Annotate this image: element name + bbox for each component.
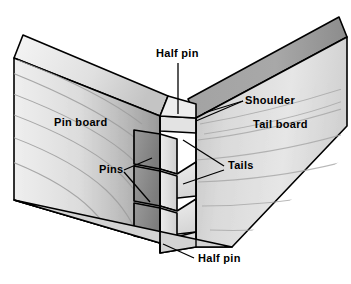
dovetail-joint-diagram: Half pin Shoulder Pin board Tail board P…	[0, 0, 351, 284]
label-pins: Pins	[99, 163, 123, 175]
pin-side-1	[160, 134, 177, 174]
label-shoulder: Shoulder	[245, 94, 295, 106]
label-tail-board: Tail board	[253, 118, 308, 130]
half-pin-top-block	[160, 116, 196, 133]
pin-side-2	[160, 171, 177, 211]
pin-face-2	[134, 166, 160, 206]
label-pin-board: Pin board	[54, 116, 107, 128]
dovetail-joint-illustration: Half pin Shoulder Pin board Tail board P…	[0, 0, 351, 284]
label-half-pin-bottom: Half pin	[198, 252, 241, 264]
label-tails: Tails	[228, 159, 254, 171]
tail-board	[188, 17, 351, 247]
label-half-pin-top: Half pin	[156, 47, 199, 59]
pin-face-1	[134, 130, 160, 169]
